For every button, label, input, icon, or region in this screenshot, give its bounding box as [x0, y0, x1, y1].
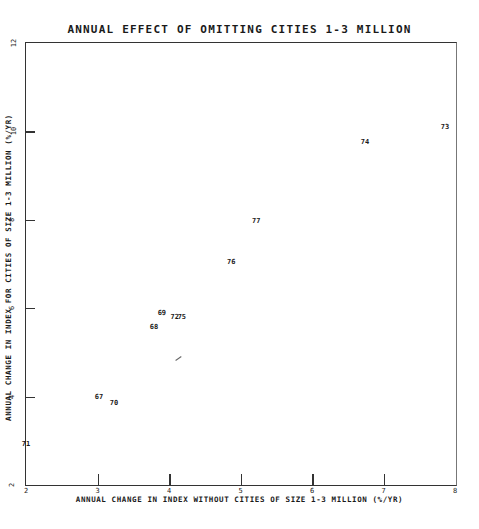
data-point-label: 68	[150, 323, 158, 331]
x-tick-label: 6	[310, 487, 314, 495]
chart-title: ANNUAL EFFECT OF OMITTING CITIES 1-3 MIL…	[0, 23, 479, 36]
data-point-label: 76	[227, 258, 235, 266]
x-tick-label: 4	[167, 487, 171, 495]
y-tick-label: 8	[8, 218, 16, 222]
y-tick-label: 4	[8, 394, 16, 398]
y-tick-label: 6	[8, 306, 16, 310]
x-tick	[312, 474, 314, 485]
x-tick	[98, 474, 100, 485]
x-tick	[241, 474, 243, 485]
x-axis-label: ANNUAL CHANGE IN INDEX WITHOUT CITIES OF…	[0, 495, 479, 504]
x-tick-label: 2	[24, 487, 28, 495]
y-tick	[25, 220, 35, 221]
y-tick	[25, 397, 35, 398]
data-point-label: 70	[110, 399, 118, 407]
y-tick	[25, 308, 35, 309]
x-tick-label: 7	[381, 487, 385, 495]
y-tick-label: 12	[10, 39, 18, 47]
plot-area	[25, 42, 457, 486]
data-point-label: 77	[252, 217, 260, 225]
y-tick-label: 10	[10, 127, 18, 135]
x-tick-label: 3	[95, 487, 99, 495]
data-point-label: 73	[441, 123, 449, 131]
y-tick-label: 2	[8, 483, 16, 487]
x-tick	[169, 474, 171, 485]
data-point-label: 71	[22, 440, 30, 448]
x-tick-label: 5	[238, 487, 242, 495]
data-point-label: 67	[95, 393, 103, 401]
data-point-label: 69	[158, 309, 166, 317]
data-point-label: 75	[178, 313, 186, 321]
y-axis-label: ANNUAL CHANGE IN INDEX FOR CITIES OF SIZ…	[4, 58, 13, 478]
y-tick	[25, 131, 35, 132]
x-tick-label: 8	[453, 487, 457, 495]
data-point-label: 74	[361, 138, 369, 146]
x-tick	[384, 474, 386, 485]
